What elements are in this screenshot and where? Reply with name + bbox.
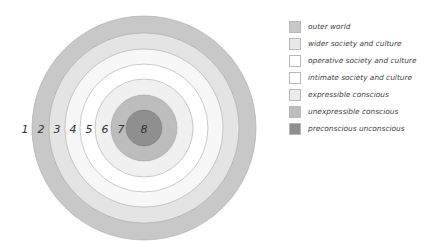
legend-item-wider-society: wider society and culture bbox=[289, 35, 416, 52]
ring-number-8: 8 bbox=[141, 124, 148, 135]
legend-label: wider society and culture bbox=[308, 39, 402, 48]
legend-swatch bbox=[289, 89, 301, 101]
legend-item-expressible-conscious: expressible conscious bbox=[289, 86, 416, 103]
legend-label: operative society and culture bbox=[308, 56, 416, 65]
legend-swatch bbox=[289, 72, 301, 84]
legend-label: preconscious unconscious bbox=[308, 124, 405, 133]
legend-item-operative-society: operative society and culture bbox=[289, 52, 416, 69]
ring-number-5: 5 bbox=[86, 124, 93, 135]
ring-number-3: 3 bbox=[54, 124, 61, 135]
legend: outer world wider society and culture op… bbox=[289, 18, 416, 137]
legend-swatch bbox=[289, 21, 301, 33]
legend-item-outer-world: outer world bbox=[289, 18, 416, 35]
legend-swatch bbox=[289, 106, 301, 118]
legend-swatch bbox=[289, 123, 301, 135]
legend-item-intimate-society: intimate society and culture bbox=[289, 69, 416, 86]
legend-item-unexpressible-conscious: unexpressible conscious bbox=[289, 103, 416, 120]
ring-number-2: 2 bbox=[38, 124, 45, 135]
ring-number-6: 6 bbox=[102, 124, 109, 135]
ring-number-1: 1 bbox=[22, 124, 29, 135]
legend-label: unexpressible conscious bbox=[308, 107, 398, 116]
legend-item-preconscious-unconscious: preconscious unconscious bbox=[289, 120, 416, 137]
legend-swatch bbox=[289, 55, 301, 67]
legend-label: expressible conscious bbox=[308, 90, 389, 99]
ring-number-4: 4 bbox=[70, 124, 77, 135]
legend-swatch bbox=[289, 38, 301, 50]
legend-label: intimate society and culture bbox=[308, 73, 412, 82]
legend-label: outer world bbox=[308, 22, 350, 31]
ring-number-7: 7 bbox=[118, 124, 125, 135]
